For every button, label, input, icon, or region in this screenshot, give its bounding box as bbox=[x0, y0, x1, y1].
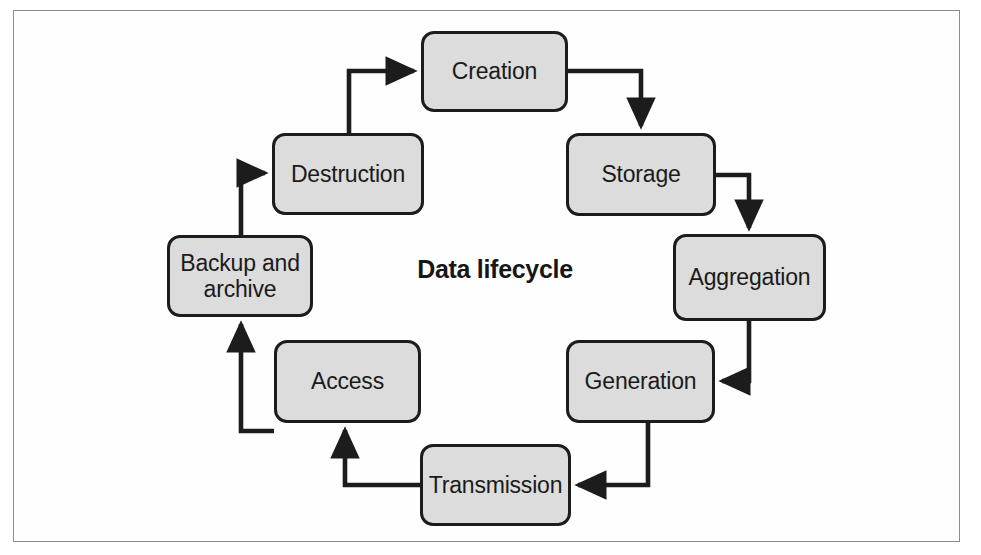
node-storage-label: Storage bbox=[597, 161, 684, 187]
node-transmission-label: Transmission bbox=[425, 472, 567, 498]
figure-canvas: Creation Storage Aggregation Generation … bbox=[0, 0, 981, 555]
edge-storage-to-aggregation bbox=[716, 175, 749, 228]
diagram-title: Data lifecycle bbox=[380, 255, 610, 284]
edge-creation-to-storage bbox=[568, 71, 641, 126]
node-creation-label: Creation bbox=[448, 58, 541, 84]
edge-destruction-to-creation bbox=[349, 71, 414, 133]
node-access-label: Access bbox=[307, 368, 388, 394]
node-destruction[interactable]: Destruction bbox=[272, 133, 424, 215]
node-generation-label: Generation bbox=[581, 368, 701, 394]
node-storage[interactable]: Storage bbox=[566, 133, 716, 216]
edge-generation-to-transmission bbox=[578, 423, 648, 485]
node-destruction-label: Destruction bbox=[287, 161, 409, 187]
edge-aggregation-to-generation bbox=[722, 321, 749, 381]
node-creation[interactable]: Creation bbox=[421, 31, 568, 112]
node-transmission[interactable]: Transmission bbox=[420, 444, 571, 526]
node-generation[interactable]: Generation bbox=[566, 340, 715, 423]
node-backup-and-archive-label: Backup and archive bbox=[176, 250, 303, 302]
node-aggregation[interactable]: Aggregation bbox=[673, 234, 826, 321]
edge-backup-to-destruction bbox=[241, 173, 265, 235]
edge-transmission-to-access bbox=[345, 430, 420, 485]
node-aggregation-label: Aggregation bbox=[685, 264, 815, 290]
node-backup-and-archive[interactable]: Backup and archive bbox=[167, 235, 313, 317]
node-access[interactable]: Access bbox=[274, 340, 421, 423]
edge-access-to-backup bbox=[241, 324, 274, 431]
